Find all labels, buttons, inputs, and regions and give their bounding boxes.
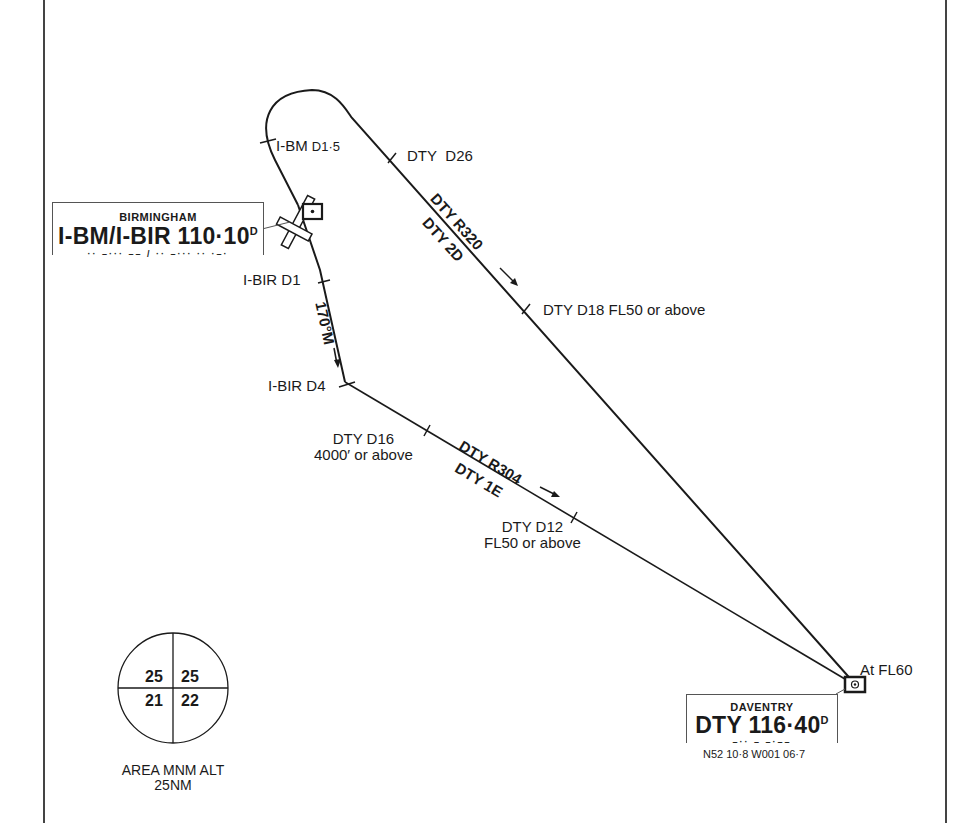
msa-value-ne: 25 (181, 668, 199, 686)
fix-tick-dty-d16 (424, 425, 430, 436)
msa-caption: AREA MNM ALT 25NM (108, 763, 238, 792)
fix-label-dty-d26: DTY D26 (407, 148, 473, 163)
birmingham-morse: ·· –··· –– / ·· –··· ·· ·–· (53, 250, 263, 259)
r304-direction-arrow-icon (540, 487, 560, 497)
fix-tick-ibir-d1 (318, 280, 330, 283)
msa-circle-icon (118, 633, 228, 743)
msa-value-se: 22 (181, 692, 199, 710)
fix-label-ibir-d1: I-BIR D1 (243, 272, 301, 287)
fix-label-dty-d18: DTY D18 FL50 or above (543, 302, 705, 317)
fix-label-ibir-d4: I-BIR D4 (268, 378, 326, 393)
fix-label-dty-d16: DTY D16 4000′ or above (314, 431, 413, 462)
birmingham-ident-freq: I-BM/I-BIR 110·10D (53, 225, 263, 248)
daventry-ident-freq: DTY 116·40D (687, 714, 837, 737)
runway-ils-symbol-icon (269, 189, 327, 255)
daventry-navaid-box: DAVENTRY DTY 116·40D –·· – –·–– (686, 694, 838, 743)
r304-track-line (345, 382, 850, 682)
dty-vordme-symbol-icon (845, 677, 865, 692)
fix-tick-dty-d26 (388, 153, 396, 163)
daventry-coords: N52 10·8 W001 06·7 (703, 749, 805, 760)
r320-direction-arrow-icon (500, 268, 518, 286)
msa-value-sw: 21 (145, 692, 163, 710)
msa-value-nw: 25 (145, 668, 163, 686)
fix-label-ibm-d15: I-BM D1·5 (276, 138, 340, 153)
fix-label-dty-d12: DTY D12 FL50 or above (484, 519, 581, 550)
birmingham-navaid-box: BIRMINGHAM I-BM/I-BIR 110·10D ·· –··· ––… (52, 202, 264, 255)
ibm-dme-symbol-icon (303, 204, 322, 219)
daventry-morse: –·· – –·–– (687, 738, 837, 747)
birmingham-name: BIRMINGHAM (53, 211, 263, 223)
daventry-altitude-note: At FL60 (860, 662, 913, 677)
